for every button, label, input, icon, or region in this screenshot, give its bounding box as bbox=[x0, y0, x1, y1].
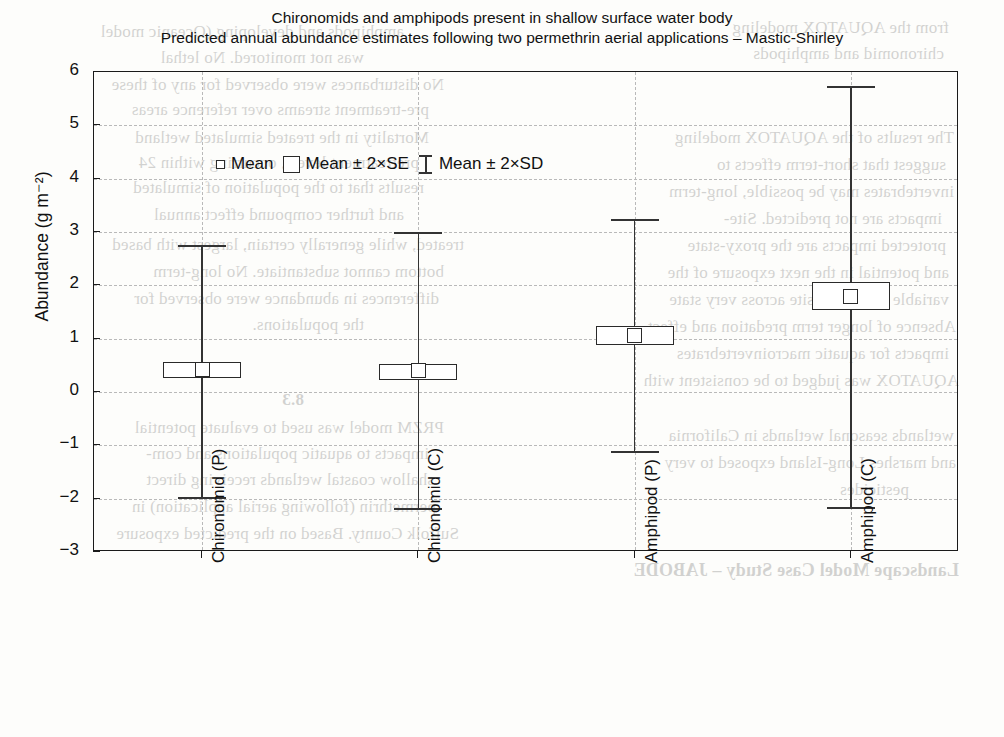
y-tick-label: −3 bbox=[0, 540, 79, 560]
mean-square-icon bbox=[216, 160, 225, 169]
sd-whisker-icon bbox=[418, 155, 433, 174]
y-tick-label: 0 bbox=[0, 380, 79, 400]
gridline-horizontal bbox=[94, 232, 957, 233]
y-tick-label: −2 bbox=[0, 487, 79, 507]
y-tick-mark bbox=[93, 231, 100, 232]
x-tick-mark bbox=[417, 551, 418, 558]
gridline-horizontal bbox=[94, 339, 957, 340]
whisker-cap-upper bbox=[394, 232, 442, 234]
x-tick-mark bbox=[634, 551, 635, 558]
mean-marker bbox=[195, 362, 210, 377]
legend-item-se: Mean ± 2×SE bbox=[283, 154, 409, 174]
legend-item-mean: Mean bbox=[216, 154, 274, 174]
x-tick-label-1: Chironomid (C) bbox=[425, 448, 445, 563]
x-tick-label-0: Chironomid (P) bbox=[209, 449, 229, 563]
mean-marker bbox=[627, 328, 642, 343]
y-tick-label: 2 bbox=[0, 273, 79, 293]
y-tick-label: 6 bbox=[0, 60, 79, 80]
x-tick-mark bbox=[201, 551, 202, 558]
x-tick-mark bbox=[850, 551, 851, 558]
bleedthrough-text: Landscape Model Case Study – JABODE bbox=[633, 560, 959, 581]
y-tick-mark bbox=[93, 551, 100, 552]
gridline-horizontal bbox=[94, 392, 957, 393]
legend-label-sd: Mean ± 2×SD bbox=[439, 154, 543, 174]
y-tick-mark bbox=[93, 338, 100, 339]
y-tick-mark bbox=[93, 284, 100, 285]
y-tick-mark bbox=[93, 444, 100, 445]
whisker-cap-upper bbox=[827, 86, 875, 88]
legend-label-mean: Mean bbox=[231, 154, 274, 174]
bleedthrough-text: was not monitored. No lethal bbox=[161, 48, 364, 68]
x-tick-label-3: Amphipod (C) bbox=[858, 458, 878, 563]
legend-label-se: Mean ± 2×SE bbox=[306, 154, 409, 174]
y-tick-mark bbox=[93, 498, 100, 499]
whisker-cap-upper bbox=[178, 245, 226, 247]
y-tick-label: 1 bbox=[0, 327, 79, 347]
mean-marker bbox=[843, 289, 858, 304]
gridline-horizontal bbox=[94, 125, 957, 126]
se-box-icon bbox=[283, 156, 300, 173]
mean-marker bbox=[411, 363, 426, 378]
chart-title-line-1: Chironomids and amphipods present in sha… bbox=[0, 8, 1004, 28]
whisker-cap-lower bbox=[611, 451, 659, 453]
y-tick-mark bbox=[93, 124, 100, 125]
y-tick-mark bbox=[93, 71, 100, 72]
gridline-horizontal bbox=[94, 179, 957, 180]
y-tick-label: −1 bbox=[0, 433, 79, 453]
y-tick-mark bbox=[93, 391, 100, 392]
y-tick-mark bbox=[93, 178, 100, 179]
chart-title: Chironomids and amphipods present in sha… bbox=[0, 8, 1004, 48]
x-tick-label-2: Amphipod (P) bbox=[642, 459, 662, 563]
gridline-horizontal bbox=[94, 445, 957, 446]
y-tick-label: 5 bbox=[0, 113, 79, 133]
chart-title-line-2: Predicted annual abundance estimates fol… bbox=[0, 28, 1004, 48]
legend-item-sd: Mean ± 2×SD bbox=[418, 154, 543, 174]
y-tick-label: 4 bbox=[0, 167, 79, 187]
chart-legend: Mean Mean ± 2×SE Mean ± 2×SD bbox=[216, 154, 543, 174]
y-tick-label: 3 bbox=[0, 220, 79, 240]
whisker-cap-upper bbox=[611, 219, 659, 221]
